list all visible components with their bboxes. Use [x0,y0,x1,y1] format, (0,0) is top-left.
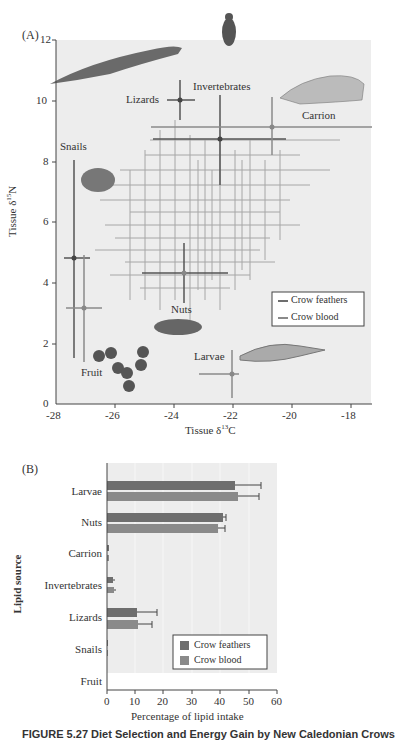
category-carrion: Carrion [68,547,102,559]
x-tick: -20 [282,409,297,421]
x-tick-b: 10 [129,695,140,707]
label-larvae: Larvae [194,350,225,362]
y-tick: 10 [36,94,47,106]
label-nuts: Nuts [171,303,192,315]
y-tick: 6 [43,215,49,227]
category-invertebrates: Invertebrates [45,579,102,591]
y-axis-label-b: Lipid source [11,555,23,614]
snail-illustration [81,168,115,192]
insect-illustration [222,13,236,46]
figure-caption: FIGURE 5.27 Diet Selection and Energy Ga… [22,728,395,740]
label-fruit: Fruit [81,366,102,378]
category-fruit: Fruit [81,675,102,687]
category-nuts: Nuts [81,516,102,528]
label-carrion: Carrion [302,109,336,121]
x-axis-label: Tissue δ13C [185,423,236,436]
label-snails: Snails [60,140,87,152]
y-tick: 12 [40,33,51,45]
x-tick: -24 [164,409,179,421]
panel-b-label: (B) [22,462,38,477]
category-snails: Snails [75,643,102,655]
x-tick-b: 20 [157,695,168,707]
label-lizards: Lizards [126,93,159,105]
x-tick: -22 [223,409,238,421]
y-tick: 0 [43,397,49,409]
y-axis-label: Tissue δ15N [5,186,18,237]
x-tick-b: 0 [104,695,110,707]
peanut-illustration [154,319,202,335]
category-larvae: Larvae [71,485,102,497]
category-lizards: Lizards [69,611,102,623]
x-tick-b: 30 [186,695,197,707]
legend-a-blood: Crow blood [291,311,339,322]
label-invertebrates: Invertebrates [193,80,250,92]
x-tick-b: 40 [214,695,225,707]
legend-a-feathers: Crow feathers [291,294,347,305]
x-tick-b: 60 [271,695,282,707]
x-axis-label-b: Percentage of lipid intake [131,710,244,722]
legend-b-blood: Crow blood [194,654,242,665]
y-tick: 2 [43,337,49,349]
x-tick-b: 50 [243,695,254,707]
x-tick: -26 [105,409,120,421]
legend-b-feathers: Crow feathers [194,639,250,650]
y-tick: 4 [43,276,49,288]
x-tick: -18 [341,409,356,421]
y-tick: 8 [43,155,49,167]
x-tick: -28 [46,409,61,421]
